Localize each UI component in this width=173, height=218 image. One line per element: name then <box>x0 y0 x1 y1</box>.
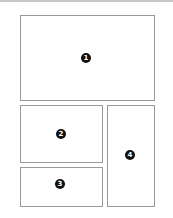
region-3-number-badge: 3 <box>55 179 65 189</box>
top-divider <box>0 0 173 2</box>
region-1-number-badge: 1 <box>81 53 91 63</box>
region-2-number-badge: 2 <box>56 129 66 139</box>
region-4-number-badge: 4 <box>125 150 135 160</box>
